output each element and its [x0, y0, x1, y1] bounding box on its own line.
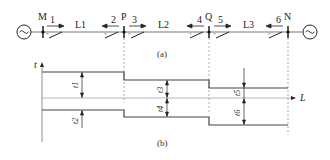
- t3-label: t3: [156, 87, 165, 93]
- bus-Q-label: Q: [205, 11, 213, 22]
- left-generator-icon: [17, 25, 31, 39]
- breaker-1-label: 1: [50, 14, 55, 25]
- protection-diagram: × × × × × × 1 2 3 4 5 6 M P Q N L1 L2 L3…: [0, 0, 330, 160]
- line-L1-label: L1: [75, 19, 86, 30]
- svg-text:×: ×: [268, 31, 271, 36]
- breaker-icons: [49, 32, 282, 38]
- y-axis-label: t: [34, 59, 37, 70]
- x-axis-arrow-icon: [291, 96, 296, 100]
- t6-label: t6: [233, 110, 242, 116]
- t4-label: t4: [156, 106, 165, 112]
- right-generator-icon: [303, 25, 317, 39]
- svg-text:×: ×: [213, 31, 216, 36]
- breaker-5-label: 5: [218, 14, 223, 25]
- caption-a: (a): [157, 49, 167, 59]
- breaker-3-label: 3: [132, 14, 137, 25]
- breaker-2-label: 2: [111, 14, 116, 25]
- t5-label: t5: [233, 90, 242, 96]
- bus-M-label: M: [38, 11, 47, 22]
- y-axis-arrow-icon: [40, 62, 44, 67]
- breaker-4-label: 4: [197, 14, 202, 25]
- breaker-6-label: 6: [276, 14, 281, 25]
- svg-text:×: ×: [104, 31, 107, 36]
- line-L3-label: L3: [243, 19, 254, 30]
- x-axis-label: L: [299, 92, 306, 103]
- line-L2-label: L2: [158, 19, 169, 30]
- svg-text:×: ×: [189, 31, 192, 36]
- bus-P-label: P: [121, 11, 127, 22]
- svg-text:×: ×: [46, 31, 49, 36]
- t1-label: t1: [71, 82, 80, 88]
- bus-N-label: N: [284, 11, 291, 22]
- svg-text:×: ×: [128, 31, 131, 36]
- bus-guides: [124, 38, 288, 135]
- t2-label: t2: [71, 118, 80, 124]
- caption-b: (b): [157, 138, 168, 148]
